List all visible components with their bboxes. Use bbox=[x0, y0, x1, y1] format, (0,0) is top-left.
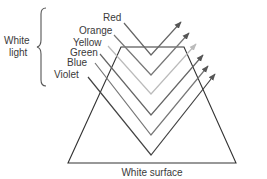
ray-red bbox=[124, 22, 181, 55]
label-red: Red bbox=[103, 12, 121, 23]
label-blue: Blue bbox=[67, 57, 87, 68]
white-light-label-line2: light bbox=[9, 47, 28, 58]
white-light-bracket bbox=[37, 8, 46, 86]
label-violet: Violet bbox=[54, 69, 79, 80]
label-orange: Orange bbox=[79, 25, 113, 36]
light-reflection-diagram: White light Red Orange Yellow Green Blue… bbox=[0, 0, 267, 179]
ray-green bbox=[100, 54, 203, 115]
white-light-label-line1: White bbox=[4, 35, 30, 46]
ray-yellow bbox=[108, 44, 196, 94]
white-surface-label: White surface bbox=[121, 167, 183, 178]
surface-outline bbox=[68, 47, 236, 163]
